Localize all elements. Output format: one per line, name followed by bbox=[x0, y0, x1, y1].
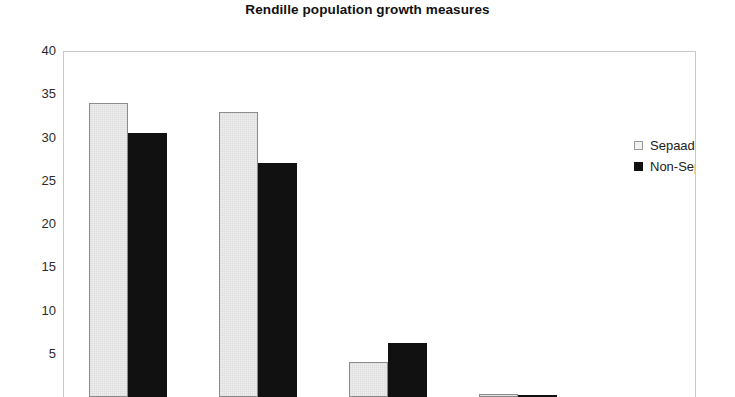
bar-non-sepaade bbox=[258, 163, 297, 397]
y-tick-label: 35 bbox=[0, 87, 56, 100]
chart-title: Rendille population growth measures bbox=[0, 2, 735, 17]
light-square-swatch bbox=[634, 141, 643, 150]
legend-item: Non-Sepaade bbox=[634, 156, 696, 177]
y-axis: 403530252015105 bbox=[0, 0, 56, 370]
y-tick-label: 30 bbox=[0, 131, 56, 144]
y-tick-label: 15 bbox=[0, 260, 56, 273]
bar-non-sepaade bbox=[388, 343, 427, 397]
bar-sepaade bbox=[219, 112, 258, 397]
bar-non-sepaade bbox=[128, 133, 167, 397]
bar-sepaade bbox=[349, 362, 388, 397]
y-tick-label: 20 bbox=[0, 217, 56, 230]
y-tick-label: 10 bbox=[0, 304, 56, 317]
black-square-swatch bbox=[634, 162, 643, 171]
legend-label: Sepaade bbox=[650, 139, 696, 152]
bar-sepaade bbox=[89, 103, 128, 397]
y-tick-label: 5 bbox=[0, 347, 56, 360]
chart-legend: SepaadeNon-Sepaade bbox=[634, 135, 696, 177]
y-tick-label: 40 bbox=[0, 44, 56, 57]
legend-label: Non-Sepaade bbox=[650, 160, 696, 173]
y-tick-label: 25 bbox=[0, 174, 56, 187]
plot-area: SepaadeNon-Sepaade bbox=[63, 51, 696, 397]
legend-item: Sepaade bbox=[634, 135, 696, 156]
